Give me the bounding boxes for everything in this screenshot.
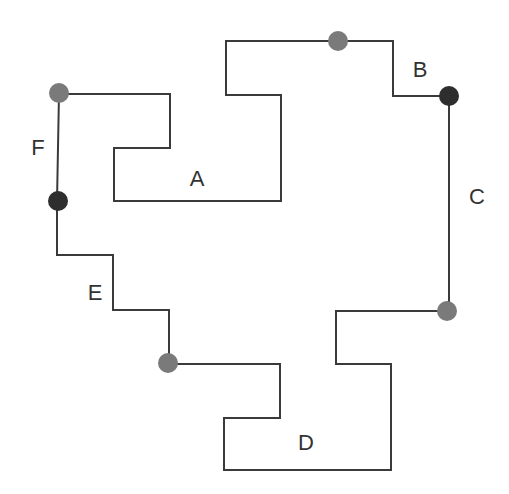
label-b: B xyxy=(413,57,428,82)
label-c: C xyxy=(469,184,485,209)
region-outline xyxy=(57,41,449,470)
label-f: F xyxy=(31,135,44,160)
region-diagram: ABCDEF xyxy=(0,0,509,494)
label-d: D xyxy=(298,430,314,455)
label-a: A xyxy=(190,166,205,191)
label-e: E xyxy=(88,280,103,305)
dot-top-marker xyxy=(328,31,348,51)
dot-c-marker xyxy=(437,301,457,321)
dot-f-top-marker xyxy=(49,83,69,103)
dot-f-bottom-marker xyxy=(48,191,68,211)
dot-e-marker xyxy=(158,353,178,373)
dot-b-marker xyxy=(439,86,459,106)
